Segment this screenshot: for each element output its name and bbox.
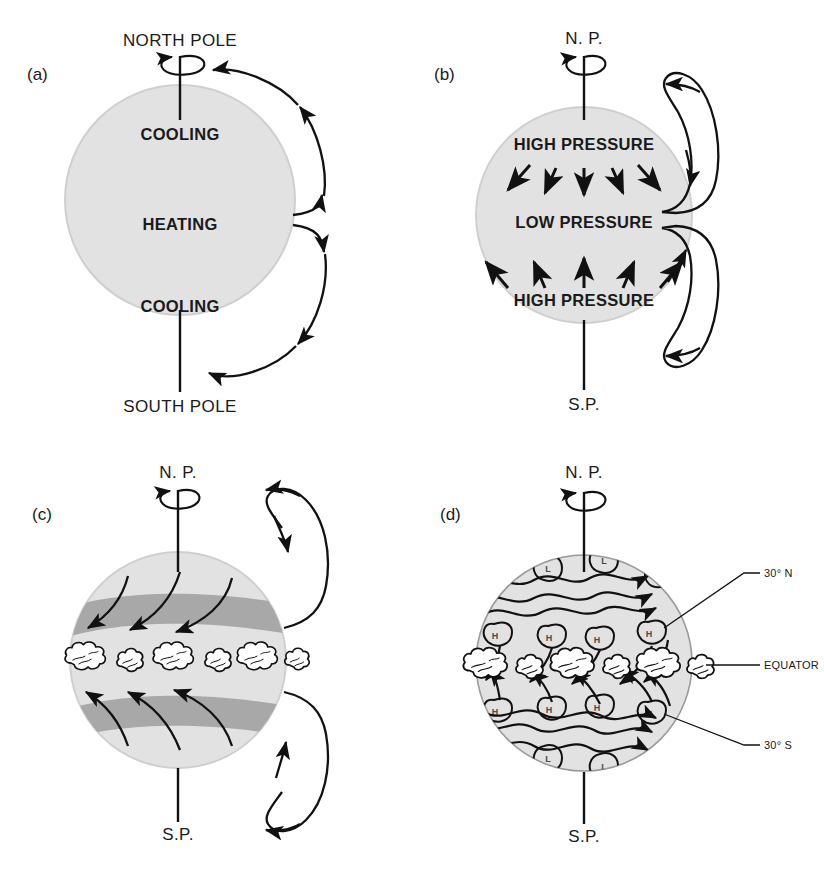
panel-d-label-30n: 30° N bbox=[764, 567, 793, 579]
low-cell-letter: L bbox=[545, 754, 551, 764]
high-cell-letter: H bbox=[492, 631, 499, 641]
panel-b-label: (b) bbox=[434, 65, 455, 84]
panel-d-label-30s: 30° S bbox=[764, 739, 792, 751]
high-cell-letter: H bbox=[546, 705, 553, 715]
panel-c-label: (c) bbox=[32, 505, 52, 524]
low-cell-letter: L bbox=[545, 564, 551, 574]
atmospheric-circulation-figure: (a) NORTH POLE SOUTH POLE COOLING HEATIN… bbox=[0, 0, 824, 871]
panel-c-north-pole-label: N. P. bbox=[159, 463, 197, 482]
panel-d-south-pole-label: S.P. bbox=[568, 827, 600, 846]
figure-canvas: (a) NORTH POLE SOUTH POLE COOLING HEATIN… bbox=[0, 0, 824, 871]
panel-b-zone-0: HIGH PRESSURE bbox=[514, 135, 655, 153]
panel-a-south-pole-label: SOUTH POLE bbox=[123, 397, 237, 416]
panel-a-north-pole-label: NORTH POLE bbox=[123, 31, 237, 50]
high-cell-letter: H bbox=[546, 633, 553, 643]
panel-a-zone-2: COOLING bbox=[140, 297, 219, 315]
high-cell-letter: H bbox=[594, 703, 601, 713]
panel-a-zone-1: HEATING bbox=[142, 215, 217, 233]
panel-d-label-equator: EQUATOR bbox=[764, 659, 819, 671]
panel-b-zone-1: LOW PRESSURE bbox=[515, 213, 652, 231]
high-cell-letter: H bbox=[594, 635, 601, 645]
panel-a-zone-0: COOLING bbox=[140, 125, 219, 143]
panel-c-south-pole-label: S.P. bbox=[162, 825, 194, 844]
panel-b-north-pole-label: N. P. bbox=[565, 29, 603, 48]
panel-b-south-pole-label: S.P. bbox=[568, 395, 600, 414]
panel-d-label: (d) bbox=[440, 505, 461, 524]
high-cell-letter: H bbox=[646, 629, 653, 639]
panel-b-zone-2: HIGH PRESSURE bbox=[514, 291, 655, 309]
low-cell-letter: L bbox=[601, 556, 607, 566]
panel-a-label: (a) bbox=[27, 65, 48, 84]
high-cell-letter: H bbox=[646, 709, 653, 719]
panel-d-north-pole-label: N. P. bbox=[565, 463, 603, 482]
